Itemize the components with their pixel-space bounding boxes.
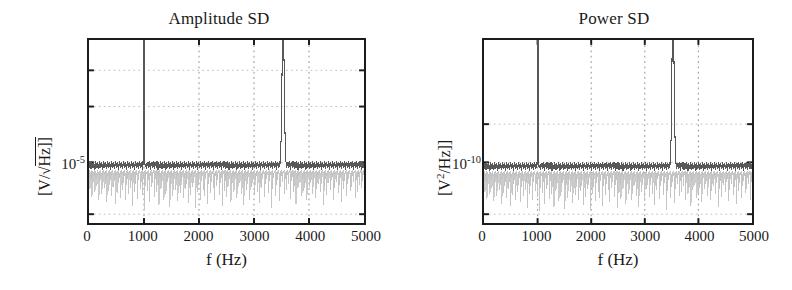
plot-svg-amplitude-sd (89, 40, 364, 223)
panel-title-amplitude-sd: Amplitude SD (0, 9, 396, 29)
y-axis-label-superscript: 2 (434, 174, 446, 180)
x-tick-labels-power-sd: 0 1000 2000 3000 4000 5000 (482, 228, 754, 250)
x-tick-5000: 5000 (739, 228, 769, 245)
y-axis-label-open: [V/ (36, 175, 53, 196)
panel-title-power-sd: Power SD (392, 9, 788, 29)
trace-signal-spectrum-dark (89, 40, 364, 170)
y-tick-label-power-sd: 10-10 (429, 154, 481, 173)
x-axis-label-power-sd: f (Hz) (482, 250, 754, 270)
x-tick-0: 0 (83, 228, 91, 245)
plot-area-power-sd (482, 38, 754, 225)
x-axis-label-amplitude-sd: f (Hz) (87, 250, 366, 270)
panel-power-sd: Power SD [V2/Hz]] 10-10 (392, 0, 788, 290)
plot-svg-power-sd (484, 40, 752, 223)
panel-amplitude-sd: Amplitude SD [V/√Hz]] 10-5 (0, 0, 396, 290)
y-tick-mantissa: 10 (61, 156, 76, 172)
x-tick-2000: 2000 (184, 228, 214, 245)
y-axis-label-open: [V (436, 179, 453, 196)
y-tick-mantissa: 10 (452, 156, 467, 172)
spectral-density-figure: Amplitude SD [V/√Hz]] 10-5 (0, 0, 792, 290)
y-tick-exponent: -10 (467, 154, 481, 165)
x-tick-1000: 1000 (521, 228, 551, 245)
y-tick-exponent: -5 (76, 154, 85, 165)
trace-signal-spectrum-dark (484, 40, 752, 171)
x-tick-0: 0 (478, 228, 486, 245)
x-tick-labels-amplitude-sd: 0 1000 2000 3000 4000 5000 (87, 228, 366, 250)
x-tick-2000: 2000 (576, 228, 606, 245)
x-tick-4000: 4000 (295, 228, 325, 245)
x-tick-3000: 3000 (630, 228, 660, 245)
y-tick-label-amplitude-sd: 10-5 (47, 154, 85, 173)
x-tick-4000: 4000 (685, 228, 715, 245)
plot-area-amplitude-sd (87, 38, 366, 225)
axis-ticks (89, 40, 364, 223)
trace-background-spectrum-light (89, 170, 364, 209)
trace-background-spectrum-light (484, 171, 752, 211)
x-tick-1000: 1000 (128, 228, 158, 245)
x-tick-5000: 5000 (351, 228, 381, 245)
axis-ticks (484, 40, 752, 223)
x-tick-3000: 3000 (239, 228, 269, 245)
